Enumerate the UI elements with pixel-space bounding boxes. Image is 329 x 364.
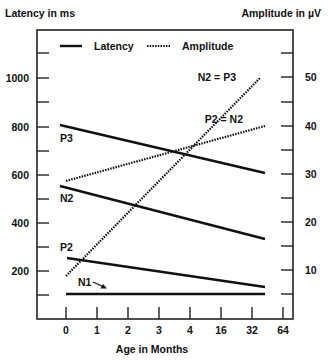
label-n1: N1 — [78, 276, 92, 288]
y-left-tick-label: 800 — [11, 121, 29, 133]
y-right-tick-label: 10 — [305, 264, 317, 276]
x-axis-ticks — [66, 307, 283, 319]
label-n2-eq-p3: N2 = P3 — [198, 71, 236, 83]
line-p3-latency — [60, 125, 265, 173]
x-tick-label: 4 — [187, 324, 193, 336]
x-tick-label: 32 — [246, 324, 258, 336]
line-n2-p3-amplitude — [66, 78, 260, 276]
y-left-tick-label: 400 — [11, 217, 29, 229]
legend-amplitude-label: Amplitude — [182, 40, 233, 52]
y-left-tick-label: 600 — [11, 169, 29, 181]
left-axis-labels: 1000 800 600 400 200 — [6, 72, 30, 277]
n1-arrow-icon — [93, 282, 107, 289]
label-p3: P3 — [60, 132, 73, 144]
x-axis-labels: 0 1 2 3 4 16 32 64 — [63, 324, 289, 336]
x-axis-title: Age in Months — [116, 343, 188, 355]
x-tick-label: 2 — [125, 324, 131, 336]
y-right-tick-label: 20 — [305, 216, 317, 228]
x-tick-label: 64 — [277, 324, 289, 336]
y-left-tick-label: 200 — [11, 265, 29, 277]
x-tick-label: 16 — [215, 324, 227, 336]
y-right-tick-label: 50 — [305, 71, 317, 83]
left-axis-ticks — [37, 53, 49, 295]
right-axis-labels: 50 40 30 20 10 — [305, 71, 317, 276]
chart: 1000 800 600 400 200 50 40 30 20 10 — [0, 0, 329, 364]
legend-latency-label: Latency — [94, 40, 134, 52]
y-right-tick-label: 30 — [305, 168, 317, 180]
line-p2-latency — [67, 258, 265, 287]
y-left-tick-label: 1000 — [6, 72, 30, 84]
x-tick-label: 1 — [94, 324, 100, 336]
label-p2-eq-n2: P2 = N2 — [205, 113, 243, 125]
x-tick-label: 3 — [156, 324, 162, 336]
right-axis-ticks — [281, 53, 293, 294]
y-right-tick-label: 40 — [305, 120, 317, 132]
line-n2-latency — [60, 186, 265, 239]
label-n2: N2 — [60, 192, 74, 204]
x-tick-label: 0 — [63, 324, 69, 336]
label-p2: P2 — [60, 241, 73, 253]
